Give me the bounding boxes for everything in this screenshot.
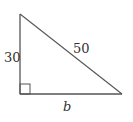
- base-label: b: [63, 99, 71, 114]
- right-angle-marker: [20, 84, 30, 94]
- hypotenuse: [20, 14, 122, 94]
- triangle-diagram: 30 50 b: [0, 0, 133, 122]
- vertical-leg-label: 30: [4, 50, 21, 65]
- hypotenuse-label: 50: [73, 41, 90, 56]
